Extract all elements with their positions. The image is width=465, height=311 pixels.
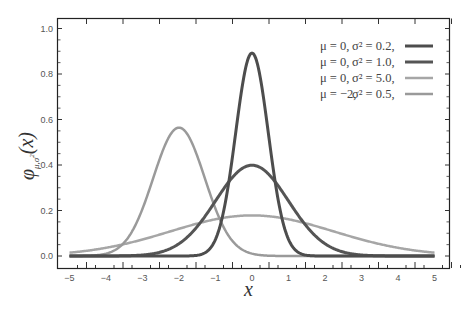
normal-distribution-chart: −5−4−3−2−1012345 0.00.20.40.60.81.0 μ = … [0, 0, 465, 311]
x-tick-label: −5 [64, 273, 74, 283]
y-tick-label: 0.0 [40, 251, 53, 261]
x-tick-label: −3 [137, 273, 147, 283]
y-tick-label: 0.8 [40, 69, 53, 79]
legend: μ = 0, σ² = 0.2, μ = 0, σ² = 1.0, μ = 0,… [320, 39, 433, 101]
svg-text:φμ,σ2(x): φμ,σ2(x) [15, 132, 41, 180]
axis-ticks [58, 19, 461, 269]
x-tick-label: 3 [359, 273, 364, 283]
y-label-sub: μ,σ [31, 157, 41, 170]
y-tick-label: 0.6 [40, 115, 53, 125]
x-axis-label: x [243, 278, 253, 300]
legend-mu-1: μ = 0, [320, 55, 349, 69]
x-tick-label: −2 [174, 273, 184, 283]
legend-mu-3: μ = −2, [320, 87, 356, 101]
curve-series-2 [70, 215, 435, 252]
y-tick-label: 1.0 [40, 24, 53, 34]
legend-sigma-3: σ² = 0.5, [352, 87, 395, 101]
y-label-arg: (x) [15, 132, 38, 155]
x-tick-label: 5 [432, 273, 437, 283]
legend-sigma-1: σ² = 1.0, [352, 55, 395, 69]
legend-mu-2: μ = 0, [320, 71, 349, 85]
y-tick-label: 0.2 [40, 206, 53, 216]
legend-mu-0: μ = 0, [320, 39, 349, 53]
y-axis-label: φμ,σ2(x) [15, 132, 41, 180]
x-tick-label: −4 [101, 273, 111, 283]
x-tick-label: −1 [210, 273, 220, 283]
curve-series-3 [70, 128, 435, 256]
legend-sigma-2: σ² = 5.0, [352, 71, 395, 85]
x-tick-label: 4 [395, 273, 400, 283]
legend-sigma-0: σ² = 0.2, [352, 39, 395, 53]
x-tick-label: 1 [286, 273, 291, 283]
x-tick-label: 2 [322, 273, 327, 283]
y-tick-label: 0.4 [40, 160, 53, 170]
y-tick-labels: 0.00.20.40.60.81.0 [40, 24, 53, 262]
y-label-base: φ [16, 169, 39, 180]
